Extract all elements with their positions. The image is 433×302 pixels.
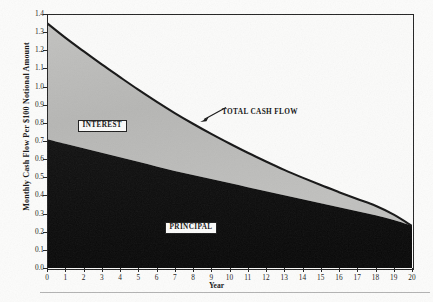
x-tick-mark-5 (138, 268, 139, 272)
x-tick-mark-12 (266, 268, 267, 272)
annotation-total-cash-flow: TOTAL CASH FLOW (222, 107, 298, 116)
chart-figure: Monthly Cash Flow Per $100 Notional Amou… (0, 0, 433, 302)
x-tick-mark-2 (84, 268, 85, 272)
x-tick-mark-0 (47, 268, 48, 272)
x-tick-mark-7 (175, 268, 176, 272)
bottom-divider (40, 292, 430, 293)
x-tick-mark-18 (376, 268, 377, 272)
x-tick-mark-16 (339, 268, 340, 272)
x-tick-mark-6 (157, 268, 158, 272)
x-tick-mark-9 (211, 268, 212, 272)
x-tick-mark-20 (412, 268, 413, 272)
x-tick-mark-17 (357, 268, 358, 272)
x-tick-mark-14 (303, 268, 304, 272)
x-axis-title: Year (0, 281, 433, 290)
x-tick-mark-1 (65, 268, 66, 272)
series-label-principal: PRINCIPAL (165, 222, 217, 234)
x-axis-ticks: 01234567891011121314151617181920 (0, 0, 433, 302)
x-tick-mark-19 (394, 268, 395, 272)
x-tick-mark-10 (230, 268, 231, 272)
x-tick-mark-4 (120, 268, 121, 272)
series-label-interest: INTEREST (78, 120, 127, 132)
x-tick-mark-15 (321, 268, 322, 272)
x-tick-mark-13 (284, 268, 285, 272)
x-tick-mark-3 (102, 268, 103, 272)
x-tick-mark-11 (248, 268, 249, 272)
x-tick-mark-8 (193, 268, 194, 272)
